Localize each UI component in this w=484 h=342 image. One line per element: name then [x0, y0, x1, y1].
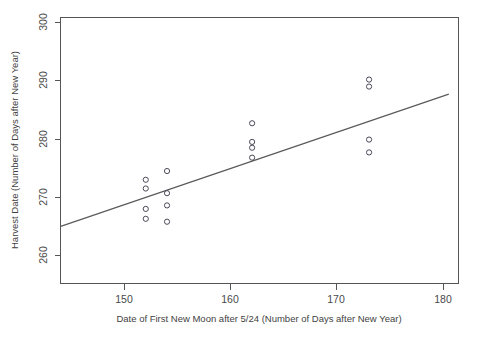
- plot-frame: [61, 18, 459, 284]
- x-tick-label-150: 150: [115, 293, 133, 305]
- data-point: [143, 177, 148, 182]
- scatter-plot-figure: 150 160 170 180 260 270 280 290 300 Date…: [0, 0, 484, 342]
- data-point: [143, 206, 148, 211]
- data-point: [143, 216, 148, 221]
- data-point: [164, 168, 169, 173]
- y-tick-label-280: 280: [37, 130, 49, 148]
- x-tick-label-170: 170: [327, 293, 345, 305]
- x-tick-label-160: 160: [221, 293, 239, 305]
- data-points-group: [143, 77, 372, 224]
- data-point: [143, 186, 148, 191]
- y-tick-label-290: 290: [37, 71, 49, 89]
- data-point: [250, 139, 255, 144]
- plot-border: [61, 18, 459, 284]
- data-point: [164, 203, 169, 208]
- y-tick-label-260: 260: [37, 246, 49, 264]
- data-point: [250, 121, 255, 126]
- x-axis-tick-labels: 150 160 170 180: [115, 293, 452, 305]
- y-axis-ticks: [55, 23, 61, 256]
- regression-line-group: [61, 94, 449, 226]
- data-point: [164, 219, 169, 224]
- x-tick-label-180: 180: [434, 293, 452, 305]
- regression-line: [61, 94, 449, 226]
- data-point: [366, 84, 371, 89]
- data-point: [250, 145, 255, 150]
- data-point: [164, 191, 169, 196]
- data-point: [366, 77, 371, 82]
- data-point: [366, 150, 371, 155]
- data-point: [366, 137, 371, 142]
- y-axis-title: Harvest Date (Number of Days after New Y…: [9, 51, 20, 249]
- x-axis-ticks: [125, 284, 444, 290]
- x-axis-title: Date of First New Moon after 5/24 (Numbe…: [116, 313, 401, 324]
- plot-canvas: 150 160 170 180 260 270 280 290 300 Date…: [0, 0, 484, 342]
- data-point: [250, 155, 255, 160]
- y-tick-label-300: 300: [37, 13, 49, 31]
- y-axis-tick-labels: 260 270 280 290 300: [37, 13, 49, 264]
- y-tick-label-270: 270: [37, 188, 49, 206]
